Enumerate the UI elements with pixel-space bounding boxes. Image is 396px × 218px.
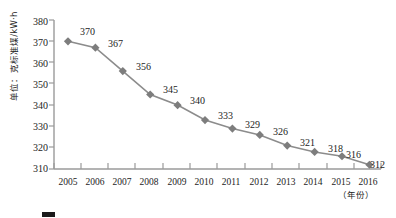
x-tick-label: 2015 <box>326 177 356 187</box>
x-tick-label: 2008 <box>134 177 164 187</box>
data-point-label: 326 <box>273 127 288 137</box>
x-tick-label: 2005 <box>53 177 83 187</box>
x-tick-label: 2016 <box>353 177 383 187</box>
data-point-label: 318 <box>328 144 343 154</box>
chart-container: 单位：克标准煤/kW·h 380 370 360 350 340 330 320… <box>0 0 396 218</box>
data-point-label: 340 <box>190 96 205 106</box>
data-point-label: 367 <box>108 39 123 49</box>
x-axis-title: （年份） <box>338 190 374 200</box>
data-point-label: 316 <box>346 150 361 160</box>
data-point-label: 356 <box>136 62 151 72</box>
bottom-caption <box>42 211 57 218</box>
x-axis-tick-labels: 2005 2006 2007 2008 2009 2010 2011 2012 … <box>0 0 396 218</box>
x-tick-label: 2009 <box>162 177 192 187</box>
x-tick-label: 2011 <box>216 177 246 187</box>
data-point-label: 370 <box>80 27 95 37</box>
caption-marker <box>42 212 55 217</box>
x-tick-label: 2013 <box>271 177 301 187</box>
data-point-label: 329 <box>245 120 260 130</box>
data-point-label: 321 <box>300 138 315 148</box>
x-tick-label: 2010 <box>189 177 219 187</box>
data-point-label: 333 <box>218 111 233 121</box>
x-tick-label: 2007 <box>107 177 137 187</box>
x-tick-label: 2014 <box>298 177 328 187</box>
data-point-label: 345 <box>163 85 178 95</box>
x-tick-label: 2012 <box>244 177 274 187</box>
x-tick-label: 2006 <box>80 177 110 187</box>
data-point-label: 312 <box>370 160 385 170</box>
